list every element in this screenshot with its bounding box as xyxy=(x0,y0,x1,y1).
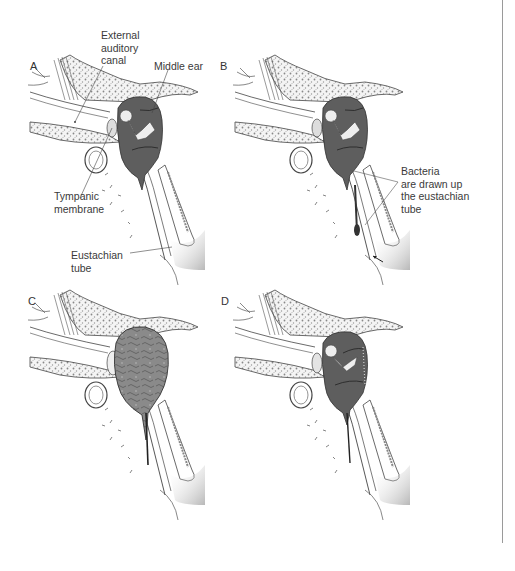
label-external-auditory-canal: External auditory canal xyxy=(101,29,140,67)
ear-anatomy-illustration xyxy=(205,280,445,570)
label-bacteria: Bacteria are drawn up the eustachian tub… xyxy=(401,165,469,215)
middle-ear-effusion xyxy=(114,327,168,440)
label-eustachian-tube: Eustachian tube xyxy=(71,249,123,274)
page-margin-rule xyxy=(502,0,503,543)
label-tympanic-membrane: Tympanic membrane xyxy=(54,190,104,215)
panel-b: B Bacteria are drawn up the eustachian t… xyxy=(205,0,445,260)
panel-d: D xyxy=(205,280,445,540)
panel-a: A External auditory canal Middle ear Tym… xyxy=(0,0,240,260)
ear-anatomy-illustration xyxy=(0,280,240,570)
panel-c: C xyxy=(0,280,240,540)
label-middle-ear: Middle ear xyxy=(154,60,203,73)
ear-anatomy-illustration xyxy=(205,0,445,290)
